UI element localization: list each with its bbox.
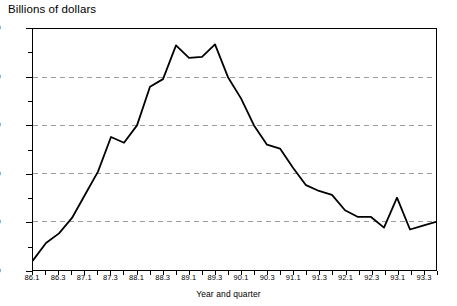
x-tick-label: 90.3	[260, 273, 275, 282]
plot-area	[32, 28, 437, 271]
x-tick-label: 86.3	[51, 273, 66, 282]
x-tick-label: 89.3	[207, 273, 222, 282]
x-tick-label: 92.1	[338, 273, 353, 282]
x-tick-label: 88.3	[155, 273, 170, 282]
series-line	[33, 44, 436, 260]
y-tick-label: 50	[0, 170, 1, 178]
x-tick-label: 92.3	[364, 273, 379, 282]
x-tick-label: 86.1	[25, 273, 40, 282]
y-tick-label: 50	[0, 267, 1, 275]
y-tick-label: 00	[0, 218, 1, 226]
x-axis: 86.186.387.187.388.188.389.189.390.190.3…	[32, 273, 437, 287]
x-tick-label: 90.1	[234, 273, 249, 282]
x-tick-label: 87.1	[77, 273, 92, 282]
y-tick-label: 00	[0, 121, 1, 129]
x-axis-title: Year and quarter	[0, 289, 457, 299]
x-tick-label: 91.3	[312, 273, 327, 282]
y-axis: 005000500050	[0, 0, 32, 306]
x-tick-label: 91.1	[286, 273, 301, 282]
x-tick-label: 89.1	[181, 273, 196, 282]
x-tick-mark	[437, 271, 438, 275]
x-tick-label: 87.3	[103, 273, 118, 282]
x-tick-label: 93.1	[390, 273, 405, 282]
data-series-line	[33, 29, 436, 270]
y-tick-label: 50	[0, 73, 1, 81]
x-tick-label: 88.1	[129, 273, 144, 282]
y-tick-label: 00	[0, 24, 1, 32]
x-tick-label: 93.3	[416, 273, 431, 282]
chart-figure: Billions of dollars 005000500050 86.186.…	[0, 0, 457, 306]
